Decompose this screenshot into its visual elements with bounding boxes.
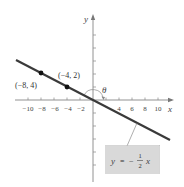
x-axis-label: x — [167, 104, 172, 114]
eq-minus: − — [129, 157, 134, 166]
x-tick-label: −4 — [64, 105, 72, 113]
y-axis-arrow-icon — [91, 14, 95, 20]
theta-arrow-icon — [102, 97, 106, 101]
theta-label: θ — [102, 85, 107, 95]
eq-numerator: 1 — [138, 152, 141, 159]
point-neg4-2 — [65, 85, 70, 90]
eq-y: y — [110, 156, 115, 166]
y-axis-label: y — [83, 14, 88, 24]
callout-leader — [127, 123, 137, 146]
eq-x: x — [145, 156, 150, 166]
point-neg8-4 — [39, 71, 44, 76]
x-tick-label: 10 — [155, 105, 163, 113]
x-tick-label: −6 — [51, 105, 59, 113]
eq-equals: = — [120, 157, 125, 166]
x-axis-arrow-icon — [168, 98, 174, 102]
point-label-neg8-4: (−8, 4) — [15, 81, 37, 90]
x-tick-label: 8 — [143, 105, 147, 113]
coordinate-plane: −10 −8 −6 −4 −2 4 6 8 10 x y θ — [0, 0, 184, 187]
x-tick-label: 6 — [130, 105, 134, 113]
x-tick-label: −8 — [38, 105, 46, 113]
x-tick-label: −10 — [23, 105, 34, 113]
x-tick-label: −2 — [77, 105, 85, 113]
point-label-neg4-2: (−4, 2) — [58, 71, 80, 80]
eq-denominator: 2 — [138, 162, 141, 169]
equation-callout: y = − 1 2 x — [105, 145, 160, 174]
